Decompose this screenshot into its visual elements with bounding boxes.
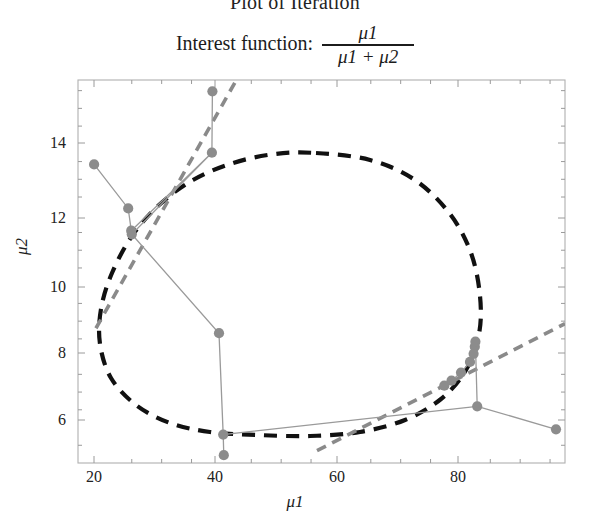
- y-tick-label: 8: [26, 344, 66, 362]
- constraint-contour: [99, 152, 481, 436]
- data-point: [89, 159, 99, 169]
- y-axis-label: μ2: [12, 238, 32, 255]
- figure-container: Plot of Iteration Interest function: μ1 …: [0, 0, 590, 532]
- data-point: [123, 203, 133, 213]
- x-tick-label: 40: [207, 468, 223, 486]
- plot-frame: [78, 80, 565, 463]
- fraction-denominator: μ1 + μ2: [334, 46, 402, 67]
- x-tick-label: 80: [450, 468, 466, 486]
- data-point: [214, 328, 224, 338]
- data-point: [470, 337, 480, 347]
- x-tick-label: 60: [329, 468, 345, 486]
- subtitle-prefix: Interest function:: [176, 32, 313, 55]
- data-point: [456, 368, 466, 378]
- data-point: [219, 450, 229, 460]
- chart-title: Plot of Iteration: [0, 0, 590, 14]
- x-tick-label: 20: [86, 468, 102, 486]
- x-axis-label: μ1: [0, 492, 590, 512]
- data-point: [218, 430, 228, 440]
- y-tick-label: 10: [26, 278, 66, 296]
- data-point: [127, 229, 137, 239]
- y-tick-label: 12: [26, 209, 66, 227]
- data-point: [207, 86, 217, 96]
- data-point: [207, 148, 217, 158]
- data-point: [551, 424, 561, 434]
- iteration-path-markers: [89, 86, 561, 460]
- y-tick-label: 14: [26, 134, 66, 152]
- chart-subtitle: Interest function: μ1 μ1 + μ2: [0, 22, 590, 65]
- axis-ticks: [78, 80, 565, 463]
- data-point: [446, 376, 456, 386]
- data-point: [472, 401, 482, 411]
- y-tick-label: 6: [26, 411, 66, 429]
- iteration-path-line: [94, 91, 556, 455]
- plot-canvas: [0, 0, 590, 532]
- tangent-line-left: [96, 80, 236, 328]
- fraction-numerator: μ1: [355, 23, 382, 44]
- interest-function-fraction: μ1 μ1 + μ2: [322, 23, 414, 66]
